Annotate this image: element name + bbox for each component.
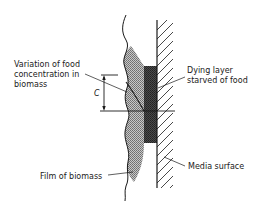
label-food-variation-1: Variation of food: [14, 60, 80, 69]
label-media-surface: Media surface: [188, 162, 244, 171]
label-dying-layer-1: Dying layer: [187, 66, 234, 75]
dying-layer: [144, 66, 157, 143]
leader-media-surface: [164, 157, 185, 166]
label-food-variation-3: biomass: [14, 80, 47, 89]
label-film-of-biomass: Film of biomass: [40, 172, 102, 181]
biofilm-diagram: Variation of food concentration in bioma…: [0, 0, 264, 209]
media-surface-hatching: [157, 12, 175, 201]
biomass-film-fill: [124, 46, 144, 182]
dimension-arrow-c: [102, 75, 105, 111]
label-dying-layer-2: starved of food: [187, 76, 248, 85]
label-food-variation-2: concentration in: [14, 70, 79, 79]
leader-food-variation: [85, 74, 127, 92]
label-dimension-c: C: [94, 89, 100, 98]
